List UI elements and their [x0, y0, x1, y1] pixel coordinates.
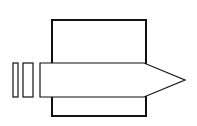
arrow-shape	[40, 63, 185, 97]
diagram-canvas	[0, 0, 197, 126]
bar-2	[23, 63, 33, 97]
bar-1	[13, 63, 18, 97]
